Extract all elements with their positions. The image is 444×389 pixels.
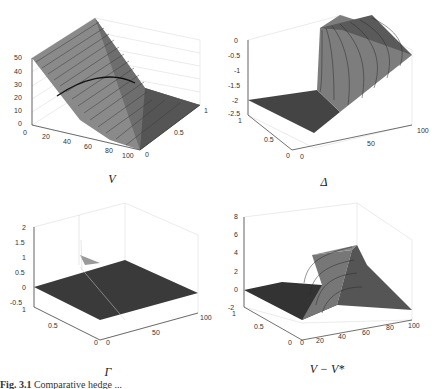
svg-text:0.5: 0.5	[48, 322, 58, 329]
svg-text:100: 100	[408, 322, 420, 329]
svg-text:0: 0	[94, 339, 98, 346]
svg-text:0: 0	[106, 339, 110, 346]
surface-diff-plot: 8 6 4 2 0 -2 1 0.5 0 0 20 40 60 80 100	[222, 195, 444, 389]
svg-text:100: 100	[200, 314, 212, 321]
z-ticks: 50 40 30 20 10 0	[14, 54, 22, 127]
svg-text:1: 1	[232, 310, 236, 317]
svg-text:30: 30	[14, 81, 22, 88]
svg-text:0: 0	[234, 37, 238, 44]
svg-text:-0.5: -0.5	[10, 299, 22, 306]
svg-text:2: 2	[22, 224, 26, 231]
surface-delta-plot: 0 -0.5 -1 -1.5 -2 -2.5 1 0.5 0 0 50 100	[222, 0, 444, 195]
chart-v-minus-vstar: 8 6 4 2 0 -2 1 0.5 0 0 20 40 60 80 100 V…	[222, 195, 444, 389]
svg-text:-1: -1	[234, 67, 240, 74]
svg-text:20: 20	[42, 133, 50, 140]
svg-text:50: 50	[367, 140, 375, 147]
chart-v: 50 40 30 20 10 0 0 20 40 60 80 100 0 0.5…	[0, 0, 222, 195]
svg-text:0: 0	[23, 129, 27, 136]
svg-text:50: 50	[14, 54, 22, 61]
panel-title-delta: Δ	[312, 175, 336, 190]
svg-text:-2.5: -2.5	[228, 110, 240, 117]
svg-text:0: 0	[288, 339, 292, 346]
svg-text:0: 0	[145, 151, 149, 158]
svg-text:1: 1	[238, 117, 242, 124]
svg-text:1: 1	[204, 107, 208, 114]
svg-text:0: 0	[22, 284, 26, 291]
caption-prefix: Fig. 3.1	[0, 379, 31, 389]
svg-text:1: 1	[22, 306, 26, 313]
caption-text: Comparative hedge ...	[34, 379, 122, 389]
svg-text:-0.5: -0.5	[228, 52, 240, 59]
svg-text:1.5: 1.5	[15, 239, 25, 246]
svg-text:0: 0	[300, 153, 304, 160]
svg-text:20: 20	[14, 94, 22, 101]
svg-text:60: 60	[84, 143, 92, 150]
figure-caption: Fig. 3.1 Comparative hedge ...	[0, 379, 444, 389]
svg-text:40: 40	[338, 333, 346, 340]
svg-text:80: 80	[386, 324, 394, 331]
svg-text:-1.5: -1.5	[228, 82, 240, 89]
svg-text:0.5: 0.5	[254, 323, 264, 330]
svg-text:4: 4	[234, 249, 238, 256]
svg-text:10: 10	[14, 107, 22, 114]
svg-text:20: 20	[316, 337, 324, 344]
panel-title-v-minus-vstar: V − V*	[297, 362, 357, 377]
svg-text:0: 0	[18, 120, 22, 127]
svg-text:1: 1	[22, 254, 26, 261]
svg-text:8: 8	[234, 213, 238, 220]
chart-delta: 0 -0.5 -1 -1.5 -2 -2.5 1 0.5 0 0 50 100 …	[222, 0, 444, 195]
svg-text:0: 0	[300, 339, 304, 346]
chart-gamma: 2 1.5 1 0.5 0 -0.5 1 0.5 0 0 50 100 Γ	[0, 195, 222, 389]
svg-text:-2: -2	[232, 97, 238, 104]
svg-text:100: 100	[417, 127, 429, 134]
svg-text:6: 6	[234, 231, 238, 238]
svg-text:0: 0	[286, 152, 290, 159]
svg-text:40: 40	[14, 68, 22, 75]
surface-gamma-plot: 2 1.5 1 0.5 0 -0.5 1 0.5 0 0 50 100	[0, 195, 222, 389]
svg-text:80: 80	[105, 147, 113, 154]
panel-title-v: V	[100, 172, 124, 187]
svg-text:0: 0	[234, 286, 238, 293]
panel-title-gamma: Γ	[96, 365, 120, 380]
svg-text:0.5: 0.5	[15, 269, 25, 276]
svg-text:60: 60	[362, 329, 370, 336]
svg-text:0.5: 0.5	[174, 129, 184, 136]
svg-text:40: 40	[63, 138, 71, 145]
svg-text:50: 50	[152, 329, 160, 336]
svg-text:2: 2	[234, 268, 238, 275]
svg-text:0.5: 0.5	[264, 136, 274, 143]
surface-v-plot: 50 40 30 20 10 0 0 20 40 60 80 100 0 0.5…	[0, 0, 222, 195]
svg-text:100: 100	[122, 152, 134, 159]
